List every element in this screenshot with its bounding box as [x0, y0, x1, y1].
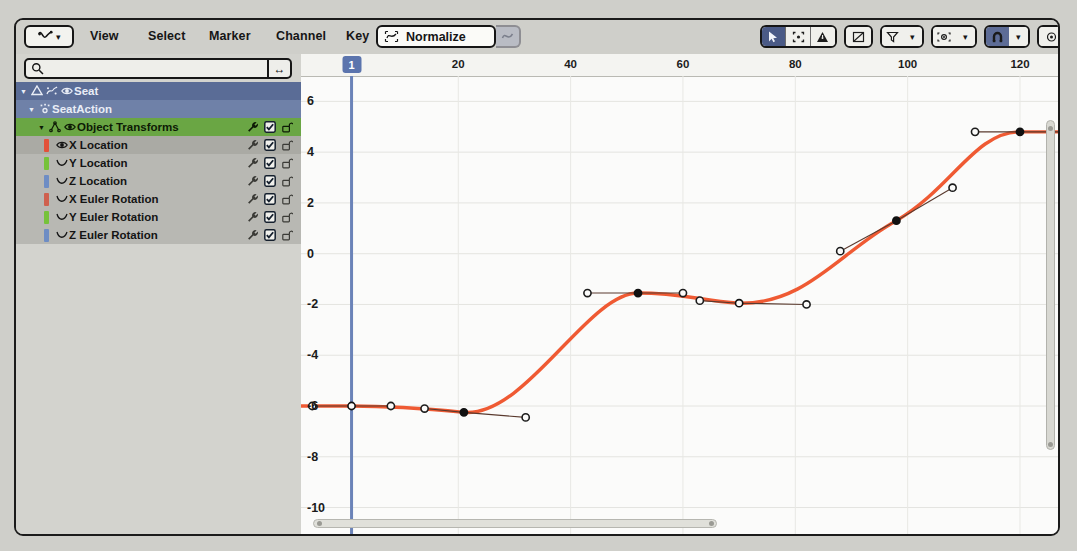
proportional-edit-cluster[interactable]: ▾ — [931, 25, 977, 48]
fcurve-icon[interactable] — [54, 211, 69, 223]
proportional-edit-icon[interactable] — [933, 27, 956, 46]
group-icon[interactable] — [47, 121, 62, 133]
fcurve-icon[interactable] — [54, 193, 69, 205]
keyframe-point[interactable] — [348, 402, 355, 409]
modifier-wrench-icon[interactable] — [247, 175, 259, 187]
lock-open-icon[interactable] — [281, 229, 293, 241]
disclosure-triangle-icon[interactable]: ▼ — [18, 88, 29, 95]
cursor-select-icon[interactable] — [762, 27, 786, 46]
menu-select[interactable]: Select — [148, 26, 185, 46]
modifier-wrench-icon[interactable] — [247, 121, 259, 133]
action-icon[interactable] — [37, 103, 52, 115]
fcurve-icon[interactable] — [54, 157, 69, 169]
value-tick-label: -2 — [307, 297, 318, 311]
keyframe-point[interactable] — [460, 409, 467, 416]
expand-arrows-icon[interactable]: ↔ — [267, 60, 290, 77]
object-icon[interactable] — [29, 85, 44, 97]
editor-type-selector[interactable]: ▾ — [24, 25, 74, 48]
channel-row-seataction[interactable]: ▼SeatAction — [16, 100, 301, 118]
fcurve-icon[interactable] — [54, 229, 69, 241]
auto-normalize-toggle[interactable] — [496, 25, 521, 48]
bezier-handle-point[interactable] — [949, 184, 956, 191]
normalize-toggle[interactable]: Normalize — [376, 25, 496, 48]
bezier-handle-point[interactable] — [803, 301, 810, 308]
channel-row-x-euler-rotation[interactable]: X Euler Rotation — [16, 190, 301, 208]
lock-open-icon[interactable] — [281, 139, 293, 151]
keyframe-point[interactable] — [893, 217, 900, 224]
modifier-wrench-icon[interactable] — [247, 157, 259, 169]
bezier-handle-point[interactable] — [387, 402, 394, 409]
lock-open-icon[interactable] — [281, 211, 293, 223]
current-frame-indicator[interactable]: 1 — [342, 56, 361, 73]
modifier-wrench-icon[interactable] — [247, 193, 259, 205]
channel-search-bar[interactable]: ↔ — [24, 58, 292, 79]
curve-plot-area[interactable]: 6420-2-4-6-8-10 — [301, 76, 1058, 534]
visibility-eye-icon[interactable] — [62, 121, 77, 133]
lock-open-icon[interactable] — [281, 193, 293, 205]
snap-dropdown-chevron-down-icon[interactable]: ▾ — [1009, 27, 1028, 46]
menu-view[interactable]: View — [90, 26, 119, 46]
bezier-handle-point[interactable] — [522, 414, 529, 421]
enable-checkbox-icon[interactable] — [264, 229, 276, 241]
channel-row-object-transforms[interactable]: ▼Object Transforms — [16, 118, 301, 136]
vertical-scrollbar-thumb[interactable] — [1046, 120, 1055, 450]
proportional-dropdown-chevron-down-icon[interactable]: ▾ — [956, 27, 975, 46]
lock-open-icon[interactable] — [281, 157, 293, 169]
snap-cluster[interactable]: ▾ — [984, 25, 1030, 48]
horizontal-scrollbar[interactable] — [305, 519, 1040, 528]
lock-open-icon[interactable] — [281, 121, 293, 133]
modifier-wrench-icon[interactable] — [247, 229, 259, 241]
bezier-handle-point[interactable] — [421, 405, 428, 412]
modifier-wrench-icon[interactable] — [247, 211, 259, 223]
bezier-handle-point[interactable] — [696, 297, 703, 304]
enable-checkbox-icon[interactable] — [264, 157, 276, 169]
animation-icon[interactable] — [44, 85, 59, 97]
keyframe-point[interactable] — [736, 300, 743, 307]
ghost-curves-icon[interactable] — [846, 27, 871, 46]
filter-cluster[interactable]: ▾ — [880, 25, 924, 48]
channel-search-input[interactable] — [48, 62, 267, 76]
fcurve-icon[interactable] — [54, 175, 69, 187]
channel-row-y-location[interactable]: Y Location — [16, 154, 301, 172]
menu-marker[interactable]: Marker — [209, 26, 251, 46]
fcurve-path[interactable] — [352, 132, 1020, 413]
enable-checkbox-icon[interactable] — [264, 211, 276, 223]
filter-funnel-icon[interactable] — [882, 27, 904, 46]
channel-row-x-location[interactable]: X Location — [16, 136, 301, 154]
lock-open-icon[interactable] — [281, 175, 293, 187]
channel-row-z-euler-rotation[interactable]: Z Euler Rotation — [16, 226, 301, 244]
only-selected-curves-icon[interactable] — [811, 27, 835, 46]
snap-magnet-icon[interactable] — [986, 27, 1009, 46]
enable-checkbox-icon[interactable] — [264, 139, 276, 151]
keyframe-point[interactable] — [1016, 128, 1023, 135]
bezier-handle-point[interactable] — [584, 289, 591, 296]
bezier-handle-point[interactable] — [679, 289, 686, 296]
disclosure-triangle-icon[interactable]: ▼ — [36, 124, 47, 131]
bezier-handle-point[interactable] — [837, 248, 844, 255]
lock-open-icon — [281, 229, 293, 241]
frame-ruler[interactable]: 204060801001201 — [301, 54, 1058, 77]
vertical-scrollbar[interactable] — [1046, 80, 1055, 504]
menu-key[interactable]: Key — [346, 26, 369, 46]
modifier-wrench-icon[interactable] — [247, 139, 259, 151]
keyframe-point[interactable] — [634, 289, 641, 296]
menu-channel[interactable]: Channel — [276, 26, 326, 46]
channel-row-z-location[interactable]: Z Location — [16, 172, 301, 190]
pivot-handle-cluster[interactable]: ▾ — [1037, 25, 1060, 48]
enable-checkbox-icon[interactable] — [264, 193, 276, 205]
filter-dropdown-chevron-down-icon[interactable]: ▾ — [904, 27, 922, 46]
bezier-handle-point[interactable] — [971, 128, 978, 135]
bezier-handle-line — [896, 188, 952, 221]
channel-row-seat[interactable]: ▼Seat — [16, 82, 301, 100]
ghost-curves-button[interactable] — [844, 25, 873, 48]
channel-row-y-euler-rotation[interactable]: Y Euler Rotation — [16, 208, 301, 226]
visibility-eye-icon[interactable] — [59, 85, 74, 97]
enable-checkbox-icon[interactable] — [264, 121, 276, 133]
horizontal-scrollbar-thumb[interactable] — [313, 519, 717, 528]
box-select-icon[interactable] — [786, 27, 810, 46]
pivot-point-icon[interactable] — [1039, 27, 1060, 46]
visibility-eye-icon[interactable] — [54, 139, 69, 151]
disclosure-triangle-icon[interactable]: ▼ — [26, 106, 37, 113]
select-mode-cluster[interactable] — [760, 25, 837, 48]
enable-checkbox-icon[interactable] — [264, 175, 276, 187]
